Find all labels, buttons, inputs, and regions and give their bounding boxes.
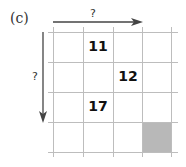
horizontal-arrow-icon <box>53 18 143 26</box>
grid-diagram <box>0 0 186 167</box>
vertical-arrow-icon <box>39 32 47 123</box>
grid-cell-value: 12 <box>113 68 143 84</box>
horizontal-arrow-label: ? <box>90 7 96 20</box>
grid-cell-value: 17 <box>83 98 113 114</box>
vertical-arrow-label: ? <box>32 70 38 83</box>
shaded-cell <box>142 122 171 152</box>
grid-cell-value: 11 <box>83 38 113 54</box>
